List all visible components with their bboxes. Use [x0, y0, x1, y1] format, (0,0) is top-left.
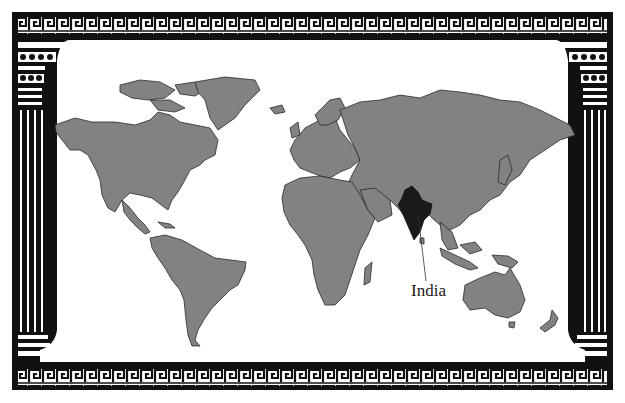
top-greek-key-band [18, 17, 607, 34]
india-label: India [411, 281, 446, 301]
world-map-figure [0, 0, 625, 403]
bottom-greek-key-band [18, 369, 607, 386]
tasmania [509, 322, 515, 328]
